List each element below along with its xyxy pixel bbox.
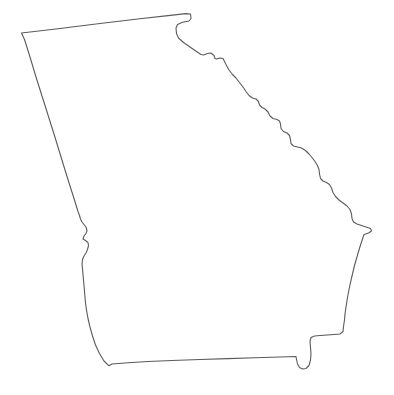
georgia-state-boundary-path bbox=[22, 14, 372, 369]
map-canvas: Georgia State Outline Map bbox=[0, 0, 394, 395]
georgia-outline-map-svg: Georgia State Outline Map bbox=[0, 0, 394, 395]
